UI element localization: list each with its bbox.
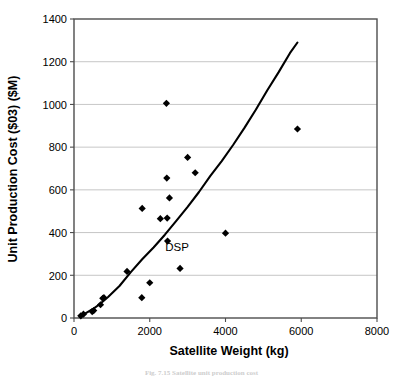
x-tick-label: 6000 [289, 325, 313, 337]
y-tick-label: 600 [49, 184, 67, 196]
y-tick-label: 200 [49, 270, 67, 282]
y-tick-label: 1000 [43, 99, 67, 111]
x-tick-label: 4000 [213, 325, 237, 337]
y-tick-label: 1400 [43, 13, 67, 25]
scatter-chart: 0200400600800100012001400 02000400060008… [0, 0, 403, 378]
y-tick-label: 0 [61, 312, 67, 324]
x-tick-label: 0 [71, 325, 77, 337]
x-tick-label: 2000 [138, 325, 162, 337]
y-tick-label: 400 [49, 227, 67, 239]
y-tick-label: 800 [49, 141, 67, 153]
y-tick-label: 1200 [43, 56, 67, 68]
y-axis-label: Unit Production Cost ($03) ($M) [6, 76, 20, 263]
x-axis-label: Satellite Weight (kg) [169, 344, 288, 358]
x-tick-label: 8000 [365, 325, 389, 337]
figure-container: 0200400600800100012001400 02000400060008… [0, 0, 403, 378]
chart-annotations: DSP [165, 241, 189, 253]
figure-caption: Fig. 7.15 Satellite unit production cost [0, 369, 403, 378]
annotation-label: DSP [165, 241, 189, 253]
